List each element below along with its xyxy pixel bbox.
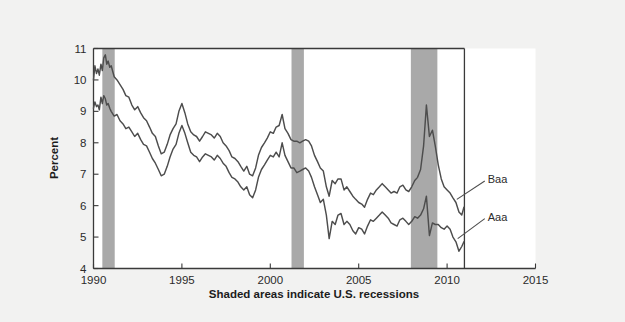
interest-rate-line-chart: 4567891011199019952000200520102015 BaaAa… <box>0 0 625 322</box>
recession-1990-1991 <box>102 49 114 269</box>
x-tick-label: 2015 <box>523 274 549 286</box>
y-tick-label: 10 <box>74 74 87 86</box>
recession-2007-2009 <box>411 49 438 269</box>
y-axis-title: Percent <box>48 137 60 179</box>
y-tick-label: 7 <box>80 168 86 180</box>
y-tick-label: 8 <box>80 137 86 149</box>
aaa-label: Aaa <box>488 211 508 223</box>
chart-caption: Shaded areas indicate U.S. recessions <box>209 288 419 300</box>
recession-2001 <box>292 49 304 269</box>
baa-label: Baa <box>488 173 508 185</box>
chart-figure: 4567891011199019952000200520102015 BaaAa… <box>0 0 625 322</box>
plot-area-background <box>94 49 536 269</box>
y-tick-label: 6 <box>80 200 86 212</box>
y-tick-label: 9 <box>80 105 86 117</box>
x-tick-label: 2010 <box>434 274 460 286</box>
x-tick-label: 2000 <box>258 274 284 286</box>
y-tick-label: 5 <box>80 231 86 243</box>
x-tick-label: 1990 <box>81 274 107 286</box>
x-tick-label: 2005 <box>346 274 372 286</box>
y-tick-label: 11 <box>75 43 87 55</box>
x-tick-label: 1995 <box>169 274 195 286</box>
